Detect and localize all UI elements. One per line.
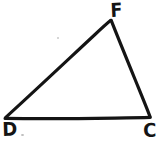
edge-DC xyxy=(5,117,150,118)
vertex-label-c: C xyxy=(143,121,157,140)
scan-speck-lower xyxy=(21,134,24,136)
scan-speck-upper xyxy=(57,37,59,39)
triangle-figure: F D C xyxy=(0,0,165,145)
figure-background xyxy=(0,0,165,145)
vertex-label-d: D xyxy=(2,119,18,139)
triangle-drawing xyxy=(0,0,165,145)
vertex-label-f: F xyxy=(110,0,123,20)
